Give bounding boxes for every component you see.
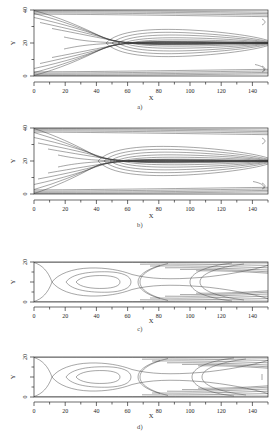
panel-b-ytick-1: 20	[22, 158, 28, 164]
panel-b-plot: 0 20 40 Y 0 20 40 60 80	[0, 118, 280, 218]
panel-c-plot: 0 20 Y 0 20 40 60 80 100	[0, 243, 280, 323]
panel-c-xtick-4: 80	[156, 313, 162, 319]
panel-b-xtick-2: 40	[93, 206, 99, 212]
panel-c-xtick-2: 40	[93, 313, 99, 319]
panel-b-xtick-1: 20	[62, 206, 68, 212]
contour-figure: 0 20 40 Y 0 20 40 60 8	[0, 0, 280, 437]
panel-a-ytick-0: 0	[22, 75, 28, 78]
panel-c-contours	[34, 262, 268, 301]
panel-a-xtick-0: 0	[33, 88, 36, 94]
panel-d-xtick-7: 140	[248, 408, 257, 414]
panel-b-xtick-5: 100	[186, 206, 195, 212]
panel-c-xtick-3: 60	[125, 313, 131, 319]
panel-a-xtick-2: 40	[93, 88, 99, 94]
panel-b-xtick-0: 0	[33, 206, 36, 212]
panel-b-ylabel: Y	[9, 158, 16, 163]
panel-b-xlabel: X	[149, 212, 154, 218]
panel-c-xtick-0: 0	[33, 313, 36, 319]
panel-b-xtick-3: 60	[125, 206, 131, 212]
panel-a-ytick-marks	[30, 10, 34, 76]
panel-d-caption: d)	[0, 423, 280, 430]
panel-a-xtick-3: 60	[125, 88, 131, 94]
panel-a-contours	[34, 11, 268, 76]
panel-b-xtick-4: 80	[156, 206, 162, 212]
panel-d-axes	[34, 357, 268, 397]
panel-d-xtick-5: 100	[186, 408, 195, 414]
panel-c-xtick-1: 20	[62, 313, 68, 319]
panel-d: 0 20 Y 0 20 40 60 80 100	[0, 338, 280, 437]
panel-b-contours	[34, 129, 268, 194]
panel-a-xtick-1: 20	[62, 88, 68, 94]
panel-c-ytick-labels: 0 20	[22, 259, 28, 304]
panel-c-xtick-5: 100	[186, 313, 195, 319]
panel-b-xtick-marks	[34, 200, 268, 204]
panel-d-ytick-labels: 0 20	[22, 354, 28, 399]
panel-c-xlabel: X	[149, 317, 154, 323]
panel-b-xtick-7: 140	[248, 206, 257, 212]
panel-b-ytick-labels: 0 20 40	[22, 125, 28, 196]
panel-a-ylabel: Y	[9, 40, 16, 45]
panel-c: 0 20 Y 0 20 40 60 80 100	[0, 243, 280, 333]
panel-a-xtick-labels: 0 20 40 60 80 100 120 140	[33, 88, 257, 94]
panel-d-xtick-6: 120	[217, 408, 226, 414]
panel-a-plot: 0 20 40 Y 0 20 40 60 8	[0, 0, 280, 100]
panel-a-ytick-labels: 0 20 40	[22, 7, 28, 78]
panel-b-ytick-marks	[30, 128, 34, 194]
panel-a-xtick-marks	[34, 82, 268, 86]
panel-a: 0 20 40 Y 0 20 40 60 8	[0, 0, 280, 115]
panel-d-xtick-marks	[34, 402, 268, 406]
panel-b: 0 20 40 Y 0 20 40 60 80	[0, 118, 280, 233]
panel-d-xtick-1: 20	[62, 408, 68, 414]
panel-c-axes	[34, 262, 268, 302]
panel-d-xlabel: X	[149, 412, 154, 418]
panel-a-caption: a)	[0, 103, 280, 110]
panel-c-xtick-7: 140	[248, 313, 257, 319]
panel-a-xtick-6: 120	[217, 88, 226, 94]
panel-d-contours	[34, 357, 268, 396]
panel-d-ylabel: Y	[9, 374, 16, 379]
panel-c-ylabel: Y	[9, 279, 16, 284]
panel-d-xtick-3: 60	[125, 408, 131, 414]
panel-b-caption: b)	[0, 221, 280, 228]
panel-d-ytick-1: 20	[22, 354, 28, 360]
panel-d-ytick-0: 0	[22, 396, 28, 399]
panel-c-xtick-labels: 0 20 40 60 80 100 120 140	[33, 313, 257, 319]
panel-d-plot: 0 20 Y 0 20 40 60 80 100	[0, 338, 280, 418]
panel-a-xtick-4: 80	[156, 88, 162, 94]
panel-c-ytick-0: 0	[22, 301, 28, 304]
panel-a-ytick-2: 40	[22, 7, 28, 13]
panel-c-xtick-marks	[34, 307, 268, 311]
panel-c-caption: c)	[0, 325, 280, 332]
panel-a-xtick-7: 140	[248, 88, 257, 94]
panel-d-xtick-labels: 0 20 40 60 80 100 120 140	[33, 408, 257, 414]
panel-b-ytick-2: 40	[22, 125, 28, 131]
panel-c-xtick-6: 120	[217, 313, 226, 319]
panel-d-ytick-marks	[30, 357, 34, 397]
panel-c-ytick-1: 20	[22, 259, 28, 265]
panel-d-xtick-2: 40	[93, 408, 99, 414]
panel-c-ytick-marks	[30, 262, 34, 302]
panel-b-ytick-0: 0	[22, 193, 28, 196]
panel-b-xtick-labels: 0 20 40 60 80 100 120 140	[33, 206, 257, 212]
panel-a-xtick-5: 100	[186, 88, 195, 94]
panel-b-xtick-6: 120	[217, 206, 226, 212]
panel-a-ytick-1: 20	[22, 40, 28, 46]
panel-a-xlabel: X	[149, 94, 154, 100]
panel-d-xtick-0: 0	[33, 408, 36, 414]
panel-d-xtick-4: 80	[156, 408, 162, 414]
